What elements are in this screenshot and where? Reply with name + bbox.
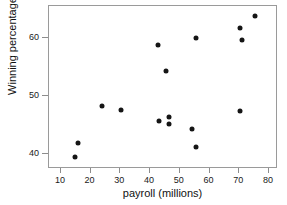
data-point bbox=[166, 121, 171, 126]
y-axis-tick bbox=[42, 153, 48, 154]
data-point bbox=[72, 154, 77, 159]
x-axis-tick-label: 50 bbox=[174, 175, 184, 185]
data-point bbox=[166, 115, 171, 120]
plot-area bbox=[49, 6, 276, 167]
data-point bbox=[99, 104, 104, 109]
x-axis-tick-label: 30 bbox=[114, 175, 124, 185]
x-axis-tick-label: 70 bbox=[233, 175, 243, 185]
x-axis-tick-label: 20 bbox=[85, 175, 95, 185]
data-point bbox=[193, 145, 198, 150]
x-axis-tick bbox=[90, 168, 91, 173]
x-axis-tick-label: 60 bbox=[204, 175, 214, 185]
data-point bbox=[75, 141, 80, 146]
data-point bbox=[240, 37, 245, 42]
x-axis-tick bbox=[209, 168, 210, 173]
y-axis-tick bbox=[42, 37, 48, 38]
x-axis-label: payroll (millions) bbox=[48, 187, 277, 199]
y-axis-tick bbox=[42, 95, 48, 96]
data-point bbox=[119, 108, 124, 113]
x-axis-tick bbox=[238, 168, 239, 173]
x-axis-tick-label: 80 bbox=[263, 175, 273, 185]
data-point bbox=[237, 109, 242, 114]
data-point bbox=[155, 43, 160, 48]
data-point bbox=[163, 69, 168, 74]
x-axis-tick-label: 40 bbox=[144, 175, 154, 185]
x-axis-tick-label: 10 bbox=[55, 175, 65, 185]
data-point bbox=[157, 118, 162, 123]
data-point bbox=[190, 127, 195, 132]
data-point bbox=[252, 13, 257, 18]
y-axis-tick-label: 50 bbox=[17, 90, 39, 100]
y-axis-tick-label: 40 bbox=[17, 148, 39, 158]
x-axis-tick bbox=[268, 168, 269, 173]
y-axis-label: Winning percentage bbox=[6, 0, 18, 111]
x-axis-tick bbox=[149, 168, 150, 173]
x-axis-tick bbox=[119, 168, 120, 173]
data-point bbox=[194, 36, 199, 41]
y-axis-tick-label: 60 bbox=[17, 32, 39, 42]
scatter-plot-figure: 1020304050607080 405060 payroll (million… bbox=[0, 0, 287, 205]
plot-frame bbox=[48, 5, 277, 168]
x-axis-tick bbox=[60, 168, 61, 173]
x-axis-tick bbox=[179, 168, 180, 173]
data-point bbox=[237, 25, 242, 30]
